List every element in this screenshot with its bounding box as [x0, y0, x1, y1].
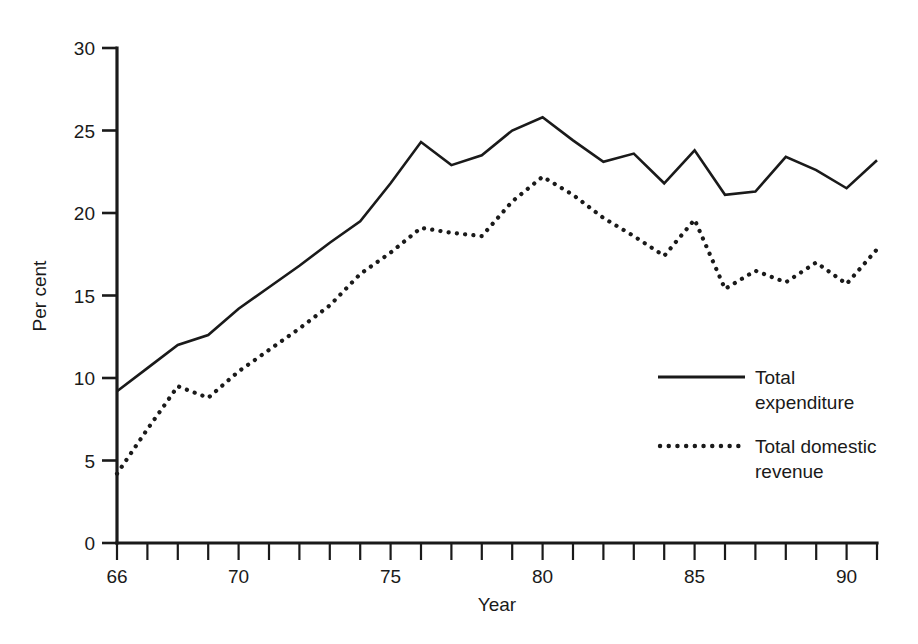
x-axis-ticks	[117, 543, 877, 560]
chart-legend: Total expenditure Total domestic revenue	[658, 367, 876, 482]
x-axis-tick-labels: 667075808590	[106, 566, 857, 587]
legend-label-total-expenditure-line1: Total	[755, 367, 795, 388]
y-tick-label-0: 0	[84, 533, 95, 554]
x-tick-label-80: 80	[532, 566, 553, 587]
y-tick-label-5: 5	[84, 451, 95, 472]
y-tick-label-10: 10	[74, 368, 95, 389]
y-axis-title: Per cent	[29, 260, 50, 331]
y-tick-label-15: 15	[74, 286, 95, 307]
x-tick-label-90: 90	[836, 566, 857, 587]
y-tick-label-20: 20	[74, 203, 95, 224]
x-tick-label-70: 70	[228, 566, 249, 587]
y-tick-label-30: 30	[74, 38, 95, 59]
legend-label-total-domestic-revenue-line2: revenue	[755, 461, 824, 482]
series-line-total-domestic-revenue	[117, 177, 877, 474]
line-chart: 051015202530 667075808590 Per cent Year …	[0, 0, 918, 644]
x-axis-title: Year	[478, 594, 517, 615]
y-tick-label-25: 25	[74, 121, 95, 142]
legend-label-total-domestic-revenue-line1: Total domestic	[755, 436, 876, 457]
data-series-layer	[117, 117, 877, 473]
series-line-total-expenditure	[117, 117, 877, 391]
y-axis: 051015202530	[74, 38, 117, 554]
legend-label-total-expenditure-line2: expenditure	[755, 392, 854, 413]
y-axis-tick-labels: 051015202530	[74, 38, 95, 554]
y-axis-ticks	[102, 48, 117, 543]
x-tick-label-85: 85	[684, 566, 705, 587]
x-axis: 667075808590	[106, 543, 877, 587]
chart-container: 051015202530 667075808590 Per cent Year …	[0, 0, 918, 644]
x-tick-label-75: 75	[380, 566, 401, 587]
x-tick-label-66: 66	[106, 566, 127, 587]
